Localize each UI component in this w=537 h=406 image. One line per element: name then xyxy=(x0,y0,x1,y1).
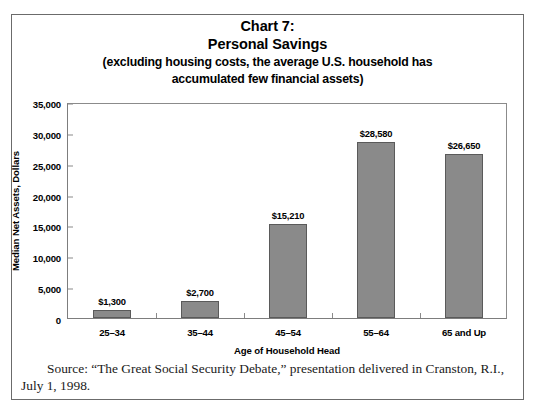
y-axis-tick-label: 0 xyxy=(56,315,61,326)
bar-value-label: $2,700 xyxy=(186,287,213,298)
y-axis-tick-label: 5,000 xyxy=(38,284,61,295)
bar-group: $26,65065 and Up xyxy=(420,104,508,318)
x-axis-title: Age of Household Head xyxy=(67,345,507,356)
plot-area: 05,00010,00015,00020,00025,00030,00035,0… xyxy=(67,103,507,319)
bar xyxy=(445,154,483,318)
x-axis-category-label: 55–64 xyxy=(363,327,389,338)
bar-value-label: $1,300 xyxy=(98,296,125,307)
y-axis-tick-label: 25,000 xyxy=(33,160,61,171)
y-axis-tick-label: 10,000 xyxy=(33,253,61,264)
y-axis-tick-label: 15,000 xyxy=(33,222,61,233)
x-axis-category-label: 35–44 xyxy=(187,327,213,338)
bar xyxy=(181,301,219,318)
x-axis-tick-mark xyxy=(156,313,157,318)
bar xyxy=(93,310,131,318)
bar-value-label: $28,580 xyxy=(360,128,393,139)
bar-group: $1,30025–34 xyxy=(68,104,156,318)
x-axis-tick-mark xyxy=(244,313,245,318)
figure-frame: Chart 7: Personal Savings (excluding hou… xyxy=(11,14,524,400)
bar-group: $2,70035–44 xyxy=(156,104,244,318)
y-axis-tick-label: 35,000 xyxy=(33,99,61,110)
x-axis-tick-mark xyxy=(420,313,421,318)
y-axis-tick-label: 20,000 xyxy=(33,191,61,202)
bar xyxy=(357,142,395,318)
x-axis-category-label: 45–54 xyxy=(275,327,301,338)
x-axis-tick-mark xyxy=(332,313,333,318)
x-axis-category-label: 25–34 xyxy=(99,327,125,338)
bar-group: $28,58055–64 xyxy=(332,104,420,318)
bar-group: $15,21045–54 xyxy=(244,104,332,318)
bar xyxy=(269,224,307,318)
x-axis-category-label: 65 and Up xyxy=(442,327,486,338)
source-note: Source: “The Great Social Security Debat… xyxy=(12,360,525,394)
y-axis-tick-label: 30,000 xyxy=(33,129,61,140)
y-axis-title: Median Net Assets, Dollars xyxy=(10,151,21,271)
bar-value-label: $26,650 xyxy=(448,140,481,151)
bar-value-label: $15,210 xyxy=(272,210,305,221)
plot-wrapper: Median Net Assets, Dollars 05,00010,0001… xyxy=(12,15,525,401)
